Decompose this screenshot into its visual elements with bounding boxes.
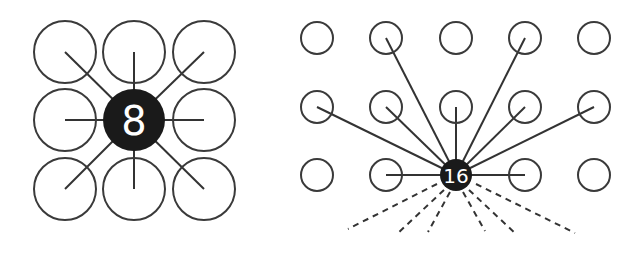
connectivity-diagrams: 8 — [0, 0, 640, 253]
left-hub-label: 8 — [121, 98, 146, 144]
right-links — [317, 38, 594, 175]
sixteen-neighbor-diagram: 16 — [301, 22, 610, 234]
eight-neighbor-diagram: 8 — [34, 21, 235, 220]
right-hub-label: 16 — [443, 164, 468, 188]
